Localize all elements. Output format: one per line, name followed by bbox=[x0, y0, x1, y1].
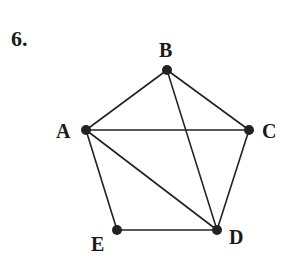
vertex-D bbox=[212, 225, 222, 235]
edge-C-D bbox=[217, 130, 249, 230]
edge-B-C bbox=[167, 70, 249, 130]
vertex-label-B: B bbox=[159, 40, 172, 60]
vertex-A bbox=[81, 125, 91, 135]
vertex-label-E: E bbox=[91, 234, 104, 254]
edge-A-E bbox=[86, 130, 117, 230]
graph-diagram bbox=[0, 0, 300, 263]
edge-A-D bbox=[86, 130, 217, 230]
edge-B-D bbox=[167, 70, 217, 230]
graph-vertices bbox=[81, 65, 254, 235]
edge-A-B bbox=[86, 70, 167, 130]
vertex-label-A: A bbox=[56, 121, 70, 141]
graph-edges bbox=[86, 70, 249, 230]
vertex-label-C: C bbox=[262, 121, 276, 141]
vertex-B bbox=[162, 65, 172, 75]
vertex-C bbox=[244, 125, 254, 135]
vertex-E bbox=[112, 225, 122, 235]
vertex-label-D: D bbox=[229, 227, 243, 247]
